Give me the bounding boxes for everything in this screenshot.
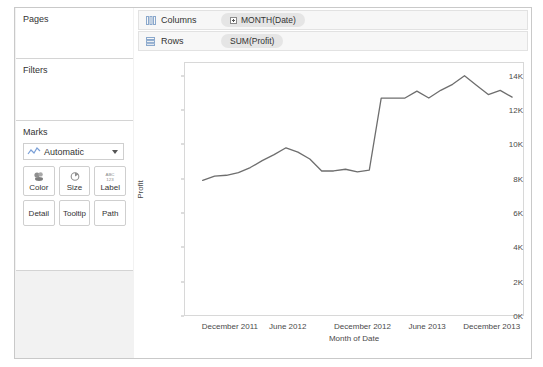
- marks-detail-button[interactable]: Detail: [23, 200, 55, 226]
- x-tick-label: December 2013: [463, 322, 520, 331]
- worksheet-main: Columns MONTH(Date) Rows SUM(Profit): [135, 8, 531, 358]
- rows-grid-icon: [145, 36, 157, 47]
- mark-buttons-row-1: Color Size: [23, 166, 126, 196]
- columns-grid-icon: [145, 15, 157, 26]
- x-axis-title: Month of Date: [184, 334, 524, 343]
- marks-sidebar: Pages Filters Marks Automatic: [15, 8, 134, 358]
- mark-type-dropdown[interactable]: Automatic: [23, 143, 124, 160]
- svg-text:123: 123: [107, 177, 115, 182]
- marks-label-label: Label: [100, 183, 120, 192]
- marks-color-button[interactable]: Color: [23, 166, 55, 196]
- pages-card[interactable]: Pages: [16, 8, 133, 59]
- profit-line-path: [203, 76, 512, 181]
- x-tick-label: June 2013: [408, 322, 445, 331]
- expand-plus-icon[interactable]: [230, 17, 237, 24]
- chevron-down-icon[interactable]: [112, 150, 118, 154]
- line-mark-icon: [27, 147, 41, 157]
- marks-label-button[interactable]: ABC 123 Label: [94, 166, 126, 196]
- x-tick-label: June 2012: [269, 322, 306, 331]
- columns-shelf-label: Columns: [161, 15, 221, 25]
- pages-card-title: Pages: [16, 8, 133, 25]
- profit-line-series: [184, 62, 524, 316]
- y-axis-title: Profit: [136, 180, 145, 199]
- pill-sum-profit-label: SUM(Profit): [230, 36, 274, 46]
- pill-sum-profit[interactable]: SUM(Profit): [221, 34, 283, 48]
- marks-tooltip-button[interactable]: Tooltip: [59, 200, 91, 226]
- marks-size-label: Size: [67, 183, 83, 192]
- mark-type-label: Automatic: [41, 147, 112, 157]
- filters-card-title: Filters: [16, 59, 133, 76]
- size-circle-icon: [69, 170, 81, 183]
- marks-color-label: Color: [29, 183, 48, 192]
- chart-area: Profit 0K2K4K6K8K10K12K14K December 2011…: [138, 54, 528, 354]
- marks-tooltip-label: Tooltip: [63, 209, 86, 218]
- columns-shelf[interactable]: Columns MONTH(Date): [138, 10, 528, 30]
- mark-buttons-row-2: Detail Tooltip Path: [23, 200, 126, 226]
- rows-shelf[interactable]: Rows SUM(Profit): [138, 31, 528, 51]
- tableau-worksheet: Pages Filters Marks Automatic: [0, 0, 543, 367]
- marks-path-label: Path: [102, 209, 118, 218]
- abc123-label-icon: ABC 123: [103, 170, 117, 183]
- marks-detail-label: Detail: [29, 209, 49, 218]
- rows-shelf-label: Rows: [161, 36, 221, 46]
- mark-buttons-group: Color Size: [23, 166, 126, 230]
- marks-path-button[interactable]: Path: [94, 200, 126, 226]
- color-palette-icon: [33, 170, 45, 183]
- marks-size-button[interactable]: Size: [59, 166, 91, 196]
- pill-month-date[interactable]: MONTH(Date): [221, 13, 305, 27]
- marks-card[interactable]: Marks Automatic: [16, 121, 133, 271]
- marks-card-title: Marks: [16, 121, 133, 138]
- filters-card[interactable]: Filters: [16, 59, 133, 121]
- x-tick-label: December 2012: [334, 322, 391, 331]
- x-tick-label: December 2011: [202, 322, 258, 331]
- pill-month-date-label: MONTH(Date): [241, 15, 296, 25]
